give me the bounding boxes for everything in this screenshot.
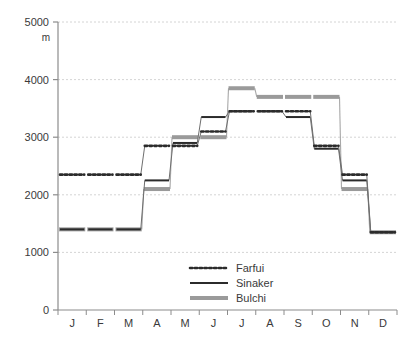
x-tick-label: J	[239, 317, 245, 329]
x-tick-label: F	[97, 317, 104, 329]
x-tick-label: A	[266, 317, 274, 329]
axes-group	[58, 22, 397, 310]
y-axis-unit-label: m	[42, 32, 50, 43]
y-tick-label: 2000	[25, 189, 49, 201]
x-tick-label: M	[124, 317, 133, 329]
x-tick-label: D	[379, 317, 387, 329]
series-bulchi	[59, 88, 396, 232]
x-tick-label: N	[351, 317, 359, 329]
y-tick-labels-group: 010002000300040005000	[25, 16, 49, 316]
x-tick-label: J	[211, 317, 217, 329]
legend-item: Bulchi	[190, 292, 266, 304]
chart-plot-area: 010002000300040005000 m JFMAMJJASOND Far…	[0, 0, 411, 342]
chart-container: 010002000300040005000 m JFMAMJJASOND Far…	[0, 0, 411, 342]
y-tick-label: 0	[43, 304, 49, 316]
x-tick-label: S	[294, 317, 301, 329]
legend-item: Sinaker	[190, 277, 274, 289]
x-tick-labels-group: JFMAMJJASOND	[69, 317, 387, 329]
x-tick-label: J	[69, 317, 75, 329]
x-tick-label: M	[181, 317, 190, 329]
gridlines-group	[58, 22, 397, 252]
legend-label: Bulchi	[236, 292, 266, 304]
x-tick-label: O	[322, 317, 331, 329]
x-tick-label: A	[153, 317, 161, 329]
legend-label: Farfui	[236, 262, 264, 274]
y-tick-label: 4000	[25, 74, 49, 86]
y-tick-marks-group	[53, 22, 58, 310]
series-farfui	[60, 111, 395, 232]
legend-item: Farfui	[190, 262, 264, 274]
x-tick-marks-group	[58, 310, 397, 315]
y-tick-label: 3000	[25, 131, 49, 143]
y-tick-label: 5000	[25, 16, 49, 28]
series-sinaker	[60, 111, 395, 232]
legend-label: Sinaker	[236, 277, 274, 289]
y-tick-label: 1000	[25, 246, 49, 258]
chart-legend: FarfuiSinakerBulchi	[190, 262, 274, 304]
